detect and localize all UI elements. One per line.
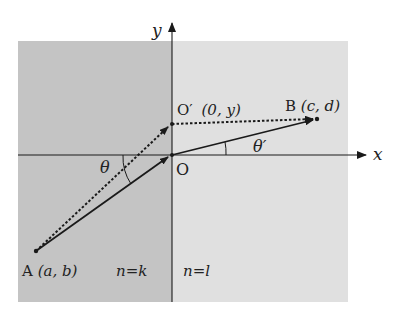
region-right-label: n=l	[183, 262, 210, 280]
point-b	[315, 117, 319, 121]
b-coords: (c, d)	[301, 97, 340, 115]
b-name: B	[285, 97, 296, 115]
theta-prime-label: θ′	[253, 137, 267, 156]
point-o	[170, 153, 174, 157]
y-axis-label: y	[151, 20, 162, 40]
x-axis-label: x	[373, 144, 383, 164]
a-label: A (a, b)	[21, 262, 78, 280]
a-coords: (a, b)	[38, 262, 78, 280]
o-prime-name: O′	[177, 101, 193, 119]
region-left-label: n=k	[116, 262, 147, 280]
o-prime-coords: (0, y)	[201, 101, 240, 119]
refraction-diagram: y x O O′ (0, y) B (c, d) A (a, b) θ θ′ n…	[0, 0, 409, 317]
o-prime-label: O′ (0, y)	[177, 101, 241, 119]
theta-label: θ	[100, 158, 110, 177]
point-o-prime	[170, 122, 174, 126]
a-name: A	[21, 262, 33, 280]
point-a	[34, 249, 38, 253]
origin-label: O	[176, 160, 189, 179]
b-label: B (c, d)	[285, 97, 340, 115]
